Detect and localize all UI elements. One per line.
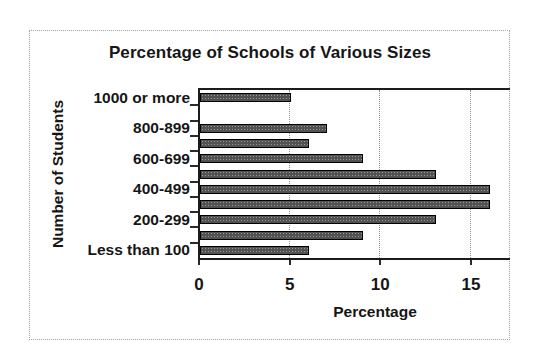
x-tick-label: 5 — [268, 275, 312, 295]
bar — [200, 154, 363, 163]
bar — [200, 231, 363, 240]
y-axis-tick — [190, 150, 198, 152]
category-label: 400-499 — [0, 180, 190, 198]
category-label: 800-899 — [0, 119, 190, 137]
bar — [200, 246, 309, 255]
y-axis-tick — [190, 181, 198, 183]
bar — [200, 170, 436, 179]
bar — [200, 185, 490, 194]
y-axis-tick — [190, 226, 198, 228]
x-axis-tick — [470, 260, 472, 265]
bar — [200, 124, 327, 133]
plot-area — [198, 88, 510, 260]
y-axis-tick — [190, 242, 198, 244]
bar — [200, 215, 436, 224]
gridline — [470, 90, 471, 258]
x-axis-tick — [379, 260, 381, 265]
bar — [200, 200, 490, 209]
x-axis-tick — [198, 260, 200, 265]
x-tick-label: 10 — [358, 275, 402, 295]
category-label: 600-699 — [0, 150, 190, 168]
category-label: Less than 100 — [0, 241, 190, 259]
y-axis-tick — [190, 196, 198, 198]
category-label: 200-299 — [0, 211, 190, 229]
bar — [200, 93, 291, 102]
bar — [200, 139, 309, 148]
y-axis-tick — [190, 104, 198, 106]
y-axis-tick — [190, 120, 198, 122]
category-label: 1000 or more — [0, 89, 190, 107]
x-axis-tick — [289, 260, 291, 265]
y-axis-tick — [190, 165, 198, 167]
x-tick-label: 15 — [449, 275, 493, 295]
x-axis-label: Percentage — [297, 303, 453, 321]
chart-title: Percentage of Schools of Various Sizes — [30, 43, 510, 63]
y-axis-tick — [190, 135, 198, 137]
y-axis-tick — [190, 211, 198, 213]
chart-figure: Percentage of Schools of Various Sizes N… — [0, 0, 540, 356]
x-tick-label: 0 — [177, 275, 221, 295]
